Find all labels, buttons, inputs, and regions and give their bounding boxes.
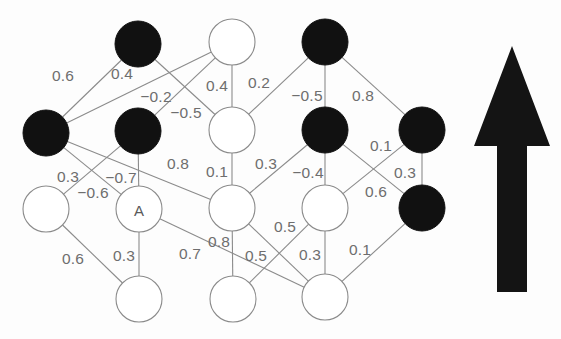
up-arrow-icon (474, 46, 550, 292)
graph-node-open[interactable]: A (116, 186, 162, 232)
node-circle[interactable] (115, 21, 161, 67)
graph-figure: A 0.60.4−0.2−0.50.40.2−0.50.80.80.10.3−0… (0, 0, 561, 339)
edge-weight-label: −0.7 (105, 169, 136, 186)
edge-weight-label: 0.4 (111, 65, 133, 82)
graph-node-open[interactable] (209, 19, 255, 65)
node-circle[interactable] (210, 276, 256, 322)
node-circle[interactable] (23, 186, 69, 232)
edge-weight-label: 0.5 (245, 247, 267, 264)
edge-weight-label: 0.3 (57, 168, 79, 185)
direction-arrow (474, 46, 550, 292)
nodes-layer: A (23, 19, 445, 322)
node-circle[interactable] (302, 185, 348, 231)
node-circle[interactable] (302, 107, 348, 153)
graph-node-filled[interactable] (399, 185, 445, 231)
node-label: A (134, 202, 144, 219)
graph-node-open[interactable] (23, 186, 69, 232)
edge-weight-label: 0.4 (206, 77, 228, 94)
graph-node-open[interactable] (116, 276, 162, 322)
edge-weight-label: −0.5 (170, 104, 201, 121)
edge-weight-label: 0.6 (52, 67, 74, 84)
edge-weight-label: 0.1 (349, 241, 371, 258)
node-circle[interactable] (209, 185, 255, 231)
edge-weight-label: 0.5 (274, 218, 296, 235)
edge-weight-label: 0.8 (167, 155, 189, 172)
edge-weight-label: 0.1 (206, 163, 228, 180)
graph-node-filled[interactable] (115, 108, 161, 154)
edge-weight-label: −0.2 (140, 88, 171, 105)
edge-weight-label: −0.6 (77, 184, 108, 201)
edge-weight-label: 0.1 (370, 137, 392, 154)
edge-weight-label: 0.3 (113, 247, 135, 264)
graph-node-filled[interactable] (302, 19, 348, 65)
edge-weight-label: 0.7 (179, 245, 201, 262)
edge-weight-label: 0.6 (62, 250, 84, 267)
edge-weight-label: 0.3 (394, 164, 416, 181)
node-circle[interactable] (302, 19, 348, 65)
edge-weight-labels-layer: 0.60.4−0.2−0.50.40.2−0.50.80.80.10.3−0.4… (52, 65, 416, 267)
node-circle[interactable] (209, 107, 255, 153)
graph-node-open[interactable] (209, 185, 255, 231)
graph-node-filled[interactable] (23, 110, 69, 156)
node-circle[interactable] (399, 107, 445, 153)
graph-node-filled[interactable] (115, 21, 161, 67)
edge-weight-label: −0.5 (291, 87, 322, 104)
node-circle[interactable] (399, 185, 445, 231)
edge-weight-label: 0.3 (299, 246, 321, 263)
edge-weight-label: −0.4 (292, 164, 324, 181)
graph-node-open[interactable] (302, 274, 348, 320)
graph-node-open[interactable] (210, 276, 256, 322)
edge-weight-label: 0.3 (255, 155, 277, 172)
graph-node-filled[interactable] (399, 107, 445, 153)
graph-node-open[interactable] (209, 107, 255, 153)
node-circle[interactable] (116, 276, 162, 322)
node-circle[interactable] (23, 110, 69, 156)
graph-canvas: A 0.60.4−0.2−0.50.40.2−0.50.80.80.10.3−0… (0, 0, 561, 339)
edge-weight-label: 0.8 (208, 233, 230, 250)
node-circle[interactable] (302, 274, 348, 320)
edge-weight-label: 0.6 (365, 183, 387, 200)
node-circle[interactable] (209, 19, 255, 65)
graph-node-filled[interactable] (302, 107, 348, 153)
graph-node-open[interactable] (302, 185, 348, 231)
node-circle[interactable] (115, 108, 161, 154)
edge-weight-label: 0.2 (248, 74, 270, 91)
edge-weight-label: 0.8 (352, 87, 374, 104)
